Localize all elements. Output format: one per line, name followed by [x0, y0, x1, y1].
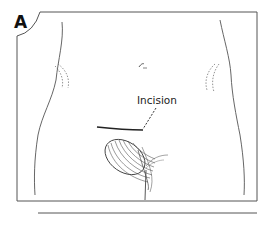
- illustration-canvas: [0, 0, 272, 230]
- genital-region-shading: [98, 132, 168, 192]
- hip-mark-left: [58, 64, 69, 88]
- anatomy-figure: A Incision: [0, 0, 272, 230]
- incision-line: [97, 127, 143, 130]
- panel-label: A: [14, 14, 27, 31]
- hip-mark-right: [206, 64, 215, 90]
- torso-outline-right: [220, 20, 244, 195]
- callout-leader-line: [143, 108, 156, 129]
- navel: [139, 64, 144, 67]
- hip-mark-right-inner: [213, 64, 219, 92]
- incision-label: Incision: [137, 95, 177, 106]
- torso-outline-left: [34, 22, 62, 195]
- figure-frame: [17, 12, 257, 201]
